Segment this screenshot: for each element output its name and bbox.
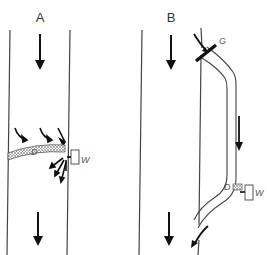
return-arrow-icon — [191, 226, 208, 248]
flow-arrow-down-icon — [33, 212, 43, 246]
plug-d — [233, 184, 242, 190]
panel-b-label: B — [167, 10, 176, 25]
curved-flow-arrows-icon — [15, 128, 65, 145]
vessel-b-right-wall-bottom — [198, 240, 199, 255]
valve-b-label: W — [255, 188, 265, 198]
vessel-b-left-wall — [139, 30, 142, 255]
panel-a-label: A — [36, 10, 45, 25]
plug-d-label: D — [224, 182, 231, 192]
outflow-arrows-icon — [50, 158, 66, 182]
panel-b: B G D W — [139, 10, 265, 255]
diagram-canvas: A D W — [0, 0, 267, 255]
vessel-a-right-wall — [67, 30, 70, 255]
valve-a-label: W — [81, 155, 91, 165]
vessel-b-right-wall-lower — [199, 55, 201, 225]
flow-arrow-down-icon — [35, 34, 45, 70]
flow-arrow-down-icon — [164, 212, 174, 246]
baffle-d-label: D — [31, 147, 38, 157]
flow-arrow-down-icon — [166, 35, 176, 70]
valve-b-w — [245, 185, 253, 200]
panel-a: A D W — [7, 10, 91, 255]
vessel-a-left-wall — [7, 30, 10, 255]
gate-g — [196, 45, 216, 61]
valve-a-w — [71, 150, 79, 164]
gate-g-label: G — [219, 36, 226, 46]
